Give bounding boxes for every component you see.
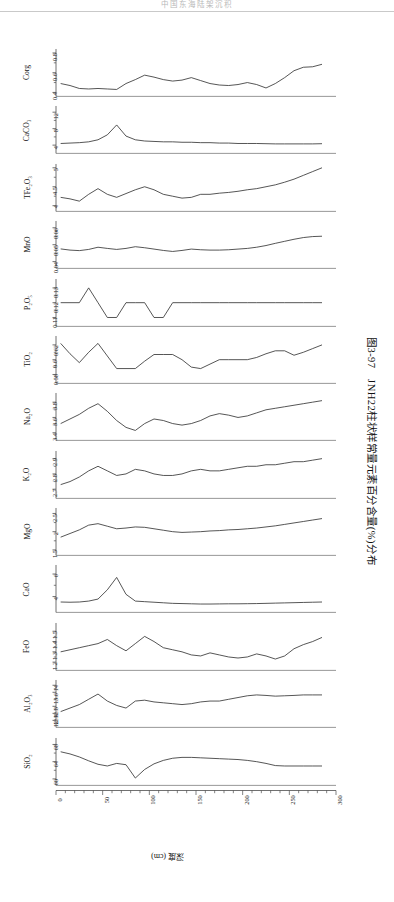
x-axis-title: 深度 (cm): [0, 852, 336, 863]
series-line-cao: [61, 578, 322, 605]
plot-svg: [56, 388, 336, 445]
series-line-sio2: [61, 751, 322, 777]
panel-caco3: CaCO₃4812: [20, 101, 336, 158]
panel-label-text: CaCO₃: [23, 119, 32, 141]
series-line-k2o: [61, 458, 322, 484]
panel-label-text: TiO₂: [23, 352, 32, 367]
x-axis: 050100150200250300: [56, 790, 336, 826]
y-tick-labels-al2o3: 1212.412.813.614: [34, 675, 56, 732]
plot-svg: [56, 560, 336, 617]
panel-label-cao: CaO: [20, 560, 34, 617]
x-tick-label: 0: [56, 798, 63, 801]
panel-label-feo: FeO: [20, 618, 34, 675]
panel-na2o: Na₂O3.43.63.8: [20, 388, 336, 445]
panel-tfe2o3: TFe₂O₃44.55: [20, 159, 336, 216]
series-line-mno: [61, 236, 322, 251]
x-tick-label: 50: [103, 797, 110, 803]
y-tick-labels-caco3: 4812: [34, 101, 56, 158]
plot-area-al2o3: [56, 675, 336, 732]
panel-corg: Corg0.40.60.8: [20, 44, 336, 101]
x-axis-title-label: 深度 (cm): [151, 852, 184, 863]
panel-label-text: TFe₂O₃: [23, 176, 32, 199]
series-line-feo: [61, 636, 322, 659]
plot-area-mgo: [56, 503, 336, 560]
panel-label-text: SiO₂: [23, 754, 32, 768]
series-line-tio2: [61, 343, 322, 368]
y-tick-labels-cao: 46: [34, 560, 56, 617]
panel-label-text: Corg: [23, 65, 32, 80]
panel-label-text: CaO: [22, 582, 31, 596]
plot-area-caco3: [56, 101, 336, 158]
plot-svg: [56, 159, 336, 216]
panel-label-caco3: CaCO₃: [20, 101, 34, 158]
x-tick-label: 300: [336, 795, 343, 805]
plot-svg: [56, 274, 336, 331]
x-tick-label: 250: [289, 795, 296, 805]
panel-label-text: MgO: [23, 524, 32, 540]
series-line-corg: [61, 64, 322, 89]
y-tick-labels-k2o: 2.72.82.9: [34, 446, 56, 503]
plot-svg: [56, 101, 336, 158]
panel-label-text: Na₂O: [23, 408, 32, 425]
panel-label-na2o: Na₂O: [20, 388, 34, 445]
series-line-na2o: [61, 401, 322, 431]
plot-area-p2o5: [56, 274, 336, 331]
plot-svg: [56, 446, 336, 503]
panel-label-p2o5: P₂O₅: [20, 274, 34, 331]
panel-feo: FeO1.21.31.41.5: [20, 618, 336, 675]
panel-tio2: TiO₂0.580.60.62: [20, 331, 336, 388]
plot-svg: [56, 44, 336, 101]
plot-area-tfe2o3: [56, 159, 336, 216]
panel-label-corg: Corg: [20, 44, 34, 101]
plot-svg: [56, 503, 336, 560]
panel-mno: MnO0.040.050.06: [20, 216, 336, 273]
panel-al2o3: Al₂O₃1212.412.813.614: [20, 675, 336, 732]
panel-label-text: MnO: [23, 237, 32, 253]
plot-svg: [56, 733, 336, 790]
panel-label-sio2: SiO₂: [20, 733, 34, 790]
series-line-p2o5: [61, 287, 322, 317]
panel-cao: CaO46: [20, 560, 336, 617]
plot-area-corg: [56, 44, 336, 101]
x-tick-label: 100: [149, 795, 156, 805]
series-line-mgo: [61, 519, 322, 538]
panel-label-k2o: K₂O: [20, 446, 34, 503]
panel-label-tio2: TiO₂: [20, 331, 34, 388]
figure-caption-text: 图3-97 JNH22柱状样常量元素百分含量(%)分布: [365, 337, 380, 565]
panel-mgo: MgO1.522.5: [20, 503, 336, 560]
panel-label-al2o3: Al₂O₃: [20, 675, 34, 732]
plot-svg: [56, 216, 336, 273]
y-tick-labels-feo: 1.21.31.41.5: [34, 618, 56, 675]
figure-container: Corg0.40.60.8CaCO₃4812TFe₂O₃44.55MnO0.04…: [0, 0, 394, 902]
figure-caption: 图3-97 JNH22柱状样常量元素百分含量(%)分布: [352, 0, 392, 902]
plot-area-feo: [56, 618, 336, 675]
panel-label-mgo: MgO: [20, 503, 34, 560]
panel-stack: Corg0.40.60.8CaCO₃4812TFe₂O₃44.55MnO0.04…: [20, 44, 336, 790]
x-tick-label: 200: [243, 795, 250, 805]
plot-area-tio2: [56, 331, 336, 388]
series-line-caco3: [61, 125, 322, 144]
series-line-al2o3: [61, 694, 322, 712]
plot-area-sio2: [56, 733, 336, 790]
panel-p2o5: P₂O₅0.110.120.13: [20, 274, 336, 331]
plot-area-k2o: [56, 446, 336, 503]
x-tick-label: 150: [196, 795, 203, 805]
panel-label-text: P₂O₅: [23, 295, 32, 310]
panel-label-tfe2o3: TFe₂O₃: [20, 159, 34, 216]
panel-label-text: Al₂O₃: [23, 695, 32, 713]
plot-svg: [56, 331, 336, 388]
panel-k2o: K₂O2.72.82.9: [20, 446, 336, 503]
panel-label-mno: MnO: [20, 216, 34, 273]
series-line-tfe2o3: [61, 168, 322, 201]
plot-svg: [56, 675, 336, 732]
plot-area-mno: [56, 216, 336, 273]
plot-area-na2o: [56, 388, 336, 445]
plot-area-cao: [56, 560, 336, 617]
plot-svg: [56, 618, 336, 675]
panel-sio2: SiO₂606468: [20, 733, 336, 790]
y-tick-labels-na2o: 3.43.63.8: [34, 388, 56, 445]
panel-label-text: FeO: [22, 640, 31, 653]
panel-label-text: K₂O: [23, 468, 32, 482]
